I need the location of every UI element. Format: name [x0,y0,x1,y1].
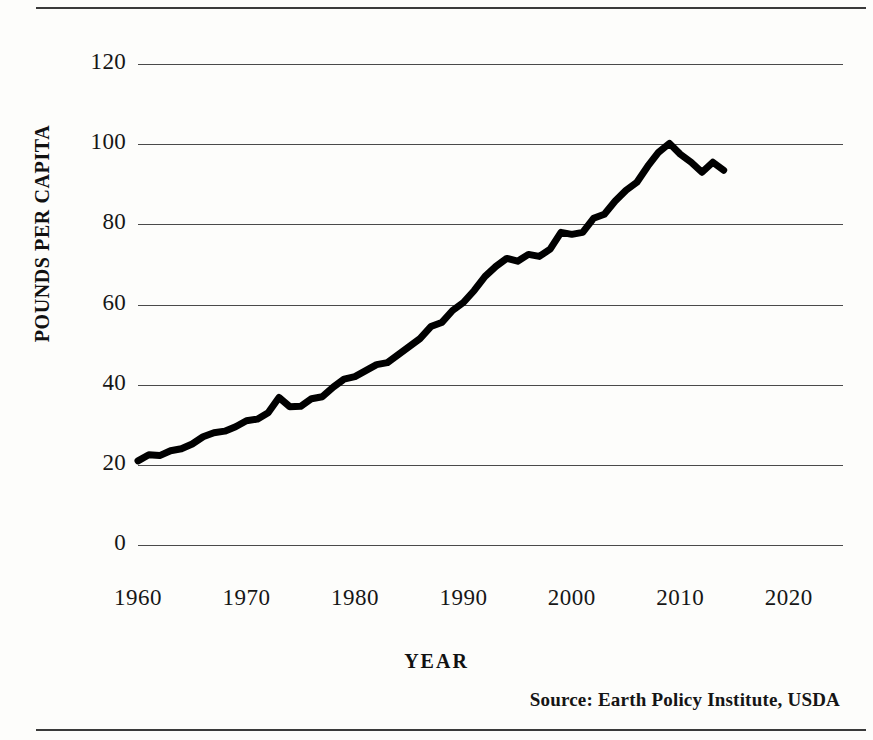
x-tick-label-2000: 2000 [527,585,617,611]
x-tick-label-1970: 1970 [201,585,291,611]
source-note: Source: Earth Policy Institute, USDA [530,689,840,711]
x-tick-label-2020: 2020 [744,585,834,611]
x-axis-tick-labels: 1960197019801990200020102020 [0,0,873,740]
x-tick-label-2010: 2010 [635,585,725,611]
x-tick-label-1990: 1990 [418,585,508,611]
figure-page: POUNDS PER CAPITA 020406080100120 196019… [0,0,873,740]
x-axis-title: YEAR [0,650,873,673]
x-tick-label-1960: 1960 [93,585,183,611]
x-tick-label-1980: 1980 [310,585,400,611]
